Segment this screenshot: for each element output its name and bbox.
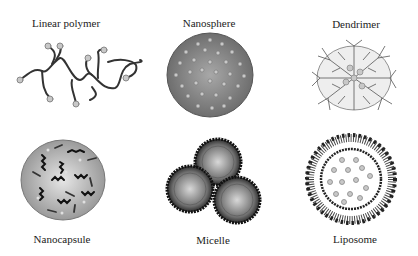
dendrimer-diagram — [312, 40, 396, 110]
nanosphere-diagram — [167, 33, 253, 117]
linear-polymer-diagram — [17, 43, 142, 107]
liposome-diagram — [307, 135, 395, 223]
nanocapsule-diagram — [21, 140, 105, 220]
micelle-diagram — [167, 139, 260, 223]
